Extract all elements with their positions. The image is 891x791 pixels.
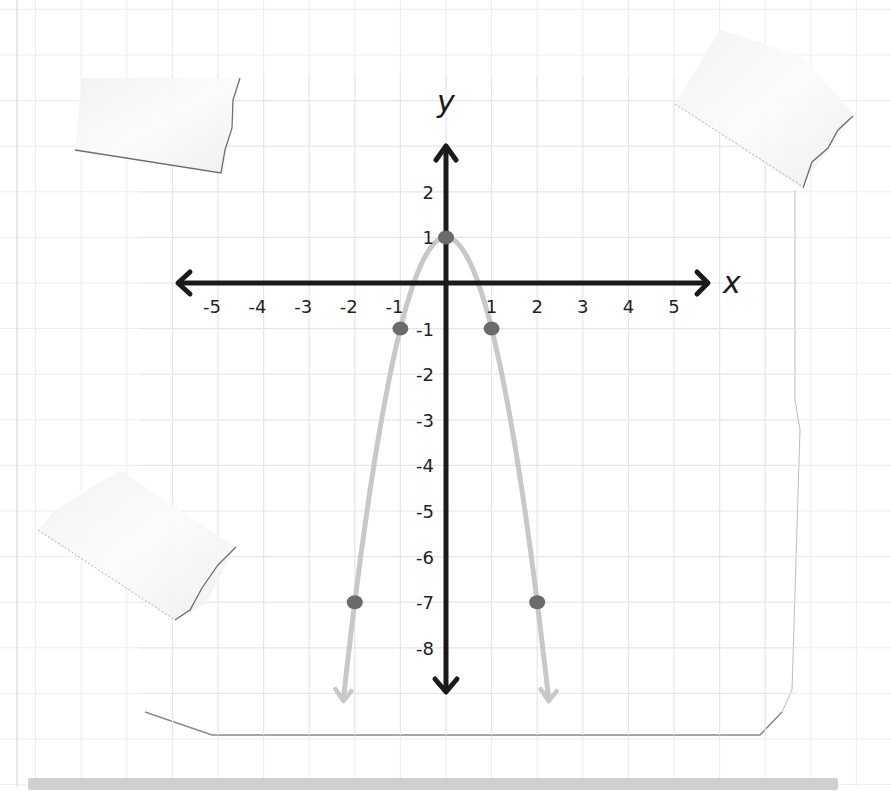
y-tick-label: -5 xyxy=(416,501,434,522)
x-tick-label: 1 xyxy=(486,296,497,317)
data-point xyxy=(438,230,454,244)
x-tick-label: -4 xyxy=(249,296,267,317)
x-axis-label: x xyxy=(722,265,741,300)
y-tick-label: -6 xyxy=(416,547,434,568)
y-tick-label: -8 xyxy=(416,638,434,659)
data-point xyxy=(529,595,545,609)
data-point xyxy=(392,322,408,336)
y-tick-label: -4 xyxy=(416,455,434,476)
paper-sheet xyxy=(140,70,800,735)
y-tick-label: -7 xyxy=(416,592,434,613)
x-tick-label: 4 xyxy=(623,296,634,317)
y-axis-label: y xyxy=(436,84,456,119)
y-tick-label: 2 xyxy=(423,182,434,203)
y-tick-label: 1 xyxy=(423,227,434,248)
x-tick-label: -2 xyxy=(340,296,358,317)
x-tick-label: 2 xyxy=(531,296,542,317)
x-tick-label: 3 xyxy=(577,296,588,317)
data-point xyxy=(484,322,500,336)
y-tick-label: -1 xyxy=(416,319,434,340)
tape-top-left xyxy=(75,78,240,173)
y-tick-label: -2 xyxy=(416,364,434,385)
x-tick-label: -1 xyxy=(385,296,403,317)
x-tick-label: -5 xyxy=(203,296,221,317)
x-tick-label: -3 xyxy=(294,296,312,317)
data-point xyxy=(347,595,363,609)
x-tick-label: 5 xyxy=(668,296,679,317)
bottom-bar xyxy=(28,778,838,790)
y-tick-label: -3 xyxy=(416,410,434,431)
